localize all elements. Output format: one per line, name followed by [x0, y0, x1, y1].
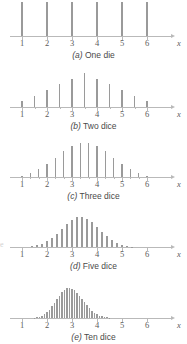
stem-bar — [99, 316, 101, 318]
panel-caption-label: (b) — [70, 121, 80, 131]
x-tick-minor — [64, 177, 65, 179]
x-axis-label: x — [177, 320, 181, 330]
x-tick-minor — [60, 107, 61, 109]
stem-bar — [79, 296, 81, 318]
stem-bar — [96, 79, 97, 107]
stem-bar — [54, 303, 56, 318]
x-axis-label: x — [177, 249, 181, 259]
stem-bar — [49, 310, 51, 318]
stem-bar — [130, 169, 131, 177]
stem-bar — [81, 217, 83, 247]
stem-bar — [89, 308, 91, 318]
stem-bar — [36, 245, 38, 247]
x-tick-label: 2 — [40, 38, 54, 48]
x-tick-label: 5 — [115, 320, 129, 330]
stem-bar — [146, 2, 147, 36]
stem-bar — [96, 314, 98, 318]
x-tick-minor — [135, 107, 136, 109]
stem-bar — [106, 236, 108, 247]
stem-bar — [121, 164, 122, 177]
x-tick-label: 5 — [115, 109, 129, 119]
x-tick-label: 4 — [90, 249, 104, 259]
stem-bar — [71, 289, 73, 318]
panel-caption-label: (d) — [70, 261, 80, 271]
x-tick-minor — [139, 177, 140, 179]
stem-bar — [76, 217, 78, 247]
stem-bar — [84, 73, 85, 107]
x-axis-label: x — [177, 109, 181, 119]
stem-bar — [46, 2, 47, 36]
stem-bar — [104, 317, 106, 318]
stem-bar — [126, 246, 128, 247]
stem-bar — [146, 101, 147, 107]
stem-bar — [71, 146, 72, 177]
x-tick-label: 1 — [15, 38, 29, 48]
x-tick-label: 1 — [15, 109, 29, 119]
x-tick-label: 2 — [40, 320, 54, 330]
dice-average-distributions-figure: e 123456x(a) One die123456x(b) Two dice1… — [0, 0, 187, 344]
x-tick-minor — [35, 107, 36, 109]
x-tick-minor — [114, 177, 115, 179]
x-axis-arrow-icon — [171, 34, 175, 38]
x-tick-label: 2 — [40, 179, 54, 189]
x-axis-label: x — [177, 38, 181, 48]
x-tick-label: 2 — [40, 249, 54, 259]
stem-bar — [96, 146, 97, 177]
x-tick-minor — [110, 107, 111, 109]
stem-bar — [80, 143, 81, 177]
x-tick-label: 6 — [140, 179, 154, 189]
x-axis-arrow-icon — [171, 105, 175, 109]
x-tick-label: 3 — [65, 179, 79, 189]
x-tick-label: 4 — [90, 109, 104, 119]
stem-bar — [88, 143, 89, 177]
x-tick-minor — [39, 177, 40, 179]
x-axis-arrow-icon — [171, 316, 175, 320]
x-tick-label: 6 — [140, 109, 154, 119]
stem-bar — [34, 96, 35, 107]
x-tick-label: 6 — [140, 38, 154, 48]
x-tick-label: 1 — [15, 320, 29, 330]
stem-bar — [91, 222, 93, 247]
x-tick-label: 3 — [65, 109, 79, 119]
stem-bar — [64, 290, 66, 318]
stem-bar — [44, 314, 46, 318]
stem-bar — [74, 290, 76, 318]
x-tick-minor — [130, 177, 131, 179]
stem-bar — [84, 302, 86, 318]
stem-bar — [66, 224, 68, 247]
stem-bar — [56, 234, 58, 247]
x-tick-label: 5 — [115, 38, 129, 48]
stem-bar — [55, 158, 56, 177]
x-tick-label: 3 — [65, 38, 79, 48]
stem-bar — [113, 158, 114, 177]
stem-bar — [61, 229, 63, 247]
stem-bar — [66, 288, 68, 318]
x-tick-label: 4 — [90, 38, 104, 48]
stem-bar — [76, 293, 78, 318]
panel-caption-a: (a) One die — [0, 50, 187, 60]
stem-bar — [59, 84, 60, 107]
stem-bar — [46, 312, 48, 318]
x-tick-label: 5 — [115, 249, 129, 259]
stem-bar — [63, 151, 64, 177]
stem-bar — [56, 299, 58, 318]
stem-bar — [121, 90, 122, 107]
stem-bar — [36, 317, 38, 318]
stem-bar — [61, 292, 63, 318]
stem-bar — [51, 238, 53, 247]
stem-bar — [134, 96, 135, 107]
panel-caption-d: (d) Five dice — [0, 261, 187, 271]
stem-bar — [71, 220, 73, 247]
stem-bar — [101, 316, 103, 318]
x-tick-label: 1 — [15, 179, 29, 189]
stem-bar — [59, 296, 61, 318]
stem-bar — [38, 169, 39, 177]
stem-bar — [86, 305, 88, 318]
panel-caption-e: (e) Ten dice — [0, 332, 187, 342]
panel-caption-label: (c) — [67, 191, 77, 201]
x-tick-label: 5 — [115, 179, 129, 189]
panel-caption-label: (a) — [72, 50, 82, 60]
stem-bar — [101, 232, 103, 247]
stem-bar — [30, 173, 31, 177]
stem-bar — [41, 316, 43, 318]
